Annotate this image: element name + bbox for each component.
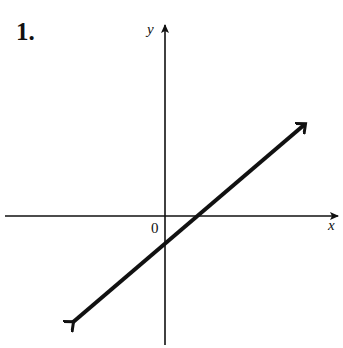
x-axis-label: x — [328, 217, 335, 234]
origin-label: 0 — [151, 220, 159, 237]
y-axis-label: y — [147, 21, 154, 38]
coordinate-plane — [0, 0, 343, 348]
plotted-line — [72, 125, 304, 323]
